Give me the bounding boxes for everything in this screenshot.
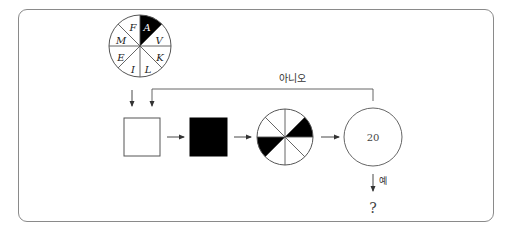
- wheel-label-l: L: [144, 64, 152, 75]
- wheel-label-i: I: [130, 64, 136, 75]
- wheel-label-m: M: [115, 35, 127, 46]
- step-white-square: [124, 118, 160, 156]
- wheel-label-a: A: [142, 22, 150, 33]
- yes-label: 예: [379, 176, 387, 186]
- wheel-label-v: V: [155, 35, 164, 46]
- wheel-label-k: K: [155, 52, 164, 63]
- step-pie-wheel: [257, 109, 313, 165]
- letter-wheel: A V K L I E M F: [109, 15, 171, 77]
- wheel-label-e: E: [116, 52, 125, 63]
- result-label: ?: [369, 200, 377, 216]
- count-value: 20: [367, 132, 380, 143]
- wheel-label-f: F: [129, 22, 138, 33]
- loop-label-no: 아니오: [279, 73, 306, 84]
- loop-back-arrow: [152, 89, 373, 106]
- flowchart: A V K L I E M F 아니오 20 예 ?: [0, 0, 509, 235]
- step-black-square: [190, 118, 227, 156]
